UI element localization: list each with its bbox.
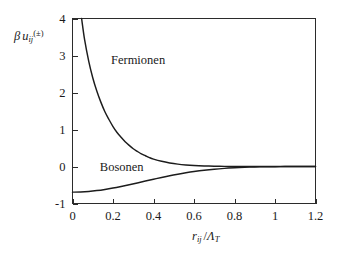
x-axis-title-lambda-subscript: T: [215, 234, 220, 244]
annotation-fermionen: Fermionen: [111, 53, 166, 67]
x-axis-ticks: [74, 199, 317, 204]
x-axis-title: rij/ΛT: [192, 230, 219, 243]
plot-canvas: 00.20.40.60.811.2 -101234 FermionenBoson…: [0, 0, 361, 266]
y-tick-label-0: -1: [55, 197, 65, 211]
y-axis-title-superscript: (±): [33, 28, 43, 38]
x-tick-label-3: 0.6: [186, 209, 202, 223]
x-tick-label-0: 0: [69, 209, 75, 223]
y-tick-label-5: 4: [59, 12, 66, 26]
y-axis-tick-labels: -101234: [55, 12, 66, 211]
y-axis-ticks: [73, 20, 78, 205]
y-tick-label-1: 0: [59, 160, 65, 174]
x-axis-title-lambda: Λ: [207, 229, 215, 243]
x-tick-label-2: 0.4: [146, 209, 162, 223]
y-tick-label-3: 2: [59, 86, 65, 100]
y-tick-label-4: 3: [59, 49, 65, 63]
plot-frame: [73, 19, 316, 204]
x-tick-label-4: 0.8: [227, 209, 243, 223]
x-tick-label-5: 1: [272, 209, 278, 223]
x-tick-label-1: 0.2: [105, 209, 121, 223]
y-axis-title: βuij(±): [14, 30, 44, 43]
x-axis-tick-labels: 00.20.40.60.811.2: [69, 209, 323, 223]
series-annotations: FermionenBosonen: [100, 53, 166, 174]
figure-container: 00.20.40.60.811.2 -101234 FermionenBoson…: [0, 0, 361, 266]
x-tick-label-6: 1.2: [308, 209, 324, 223]
curve-fermionen: [82, 19, 316, 167]
y-axis-title-beta: β: [14, 29, 20, 43]
x-axis-title-r-subscript: ij: [197, 234, 202, 244]
y-tick-label-2: 1: [59, 123, 65, 137]
annotation-bosonen: Bosonen: [100, 160, 144, 174]
